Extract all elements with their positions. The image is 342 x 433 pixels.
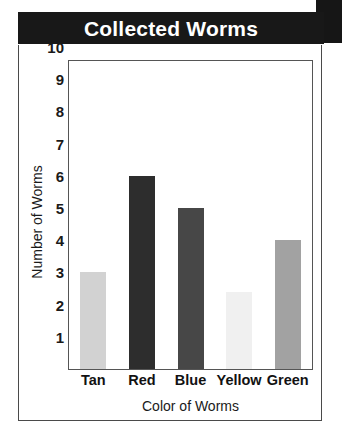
bar-tan bbox=[80, 272, 106, 369]
bar-blue bbox=[178, 208, 204, 369]
x-axis-tick-yellow: Yellow bbox=[217, 373, 262, 388]
y-axis-tick-9: 9 bbox=[30, 72, 64, 87]
y-axis-tick-10: 10 bbox=[30, 40, 64, 55]
y-axis-tick-6: 6 bbox=[30, 168, 64, 183]
y-axis-tick-8: 8 bbox=[30, 104, 64, 119]
y-axis-tick-4: 4 bbox=[30, 233, 64, 248]
y-axis-tick-2: 2 bbox=[30, 297, 64, 312]
x-axis-tick-blue: Blue bbox=[175, 373, 206, 388]
y-axis-tick-1: 1 bbox=[30, 329, 64, 344]
bar-chart: Number of Worms 10987654321 TanRedBlueYe… bbox=[0, 45, 342, 433]
x-axis-tick-tan: Tan bbox=[81, 373, 106, 388]
x-axis-title: Color of Worms bbox=[68, 399, 313, 413]
x-axis-tick-green: Green bbox=[267, 373, 309, 388]
y-axis-tick-3: 3 bbox=[30, 265, 64, 280]
page-title: Collected Worms bbox=[84, 18, 258, 39]
bar-green bbox=[275, 240, 301, 369]
bar-yellow bbox=[226, 292, 252, 369]
bars-layer bbox=[69, 61, 312, 369]
y-axis-tick-5: 5 bbox=[30, 201, 64, 216]
x-axis-tick-red: Red bbox=[128, 373, 155, 388]
y-axis-tick-7: 7 bbox=[30, 136, 64, 151]
x-axis-tick-labels: TanRedBlueYellowGreen bbox=[68, 373, 313, 395]
bar-red bbox=[129, 176, 155, 369]
y-axis-tick-labels: 10987654321 bbox=[24, 45, 64, 385]
